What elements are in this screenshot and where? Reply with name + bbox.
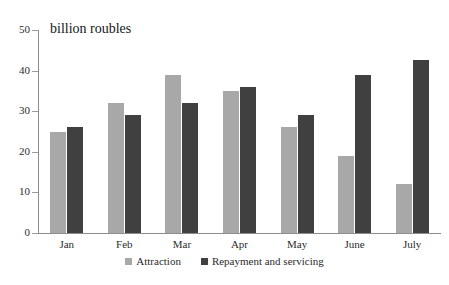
- y-axis-tick-label-wrap: 20: [0, 146, 30, 157]
- bar-repayment-july: [413, 60, 429, 233]
- bar-attraction-mar: [165, 75, 181, 233]
- y-axis-tick: [32, 233, 38, 234]
- y-axis-tick-label: 0: [2, 227, 30, 238]
- x-axis-label-may: May: [268, 238, 326, 251]
- x-axis-label-june: June: [326, 238, 384, 251]
- bar-repayment-feb: [125, 115, 141, 233]
- y-axis-tick-label: 20: [2, 146, 30, 157]
- y-axis-tick-label-wrap: 10: [0, 186, 30, 197]
- y-axis-tick-label-wrap: 40: [0, 65, 30, 76]
- legend-item-attraction[interactable]: Attraction: [125, 255, 181, 268]
- bar-repayment-may: [298, 115, 314, 233]
- y-axis-tick-label-wrap: 50: [0, 24, 30, 35]
- bar-group: [338, 30, 371, 233]
- bar-attraction-apr: [223, 91, 239, 233]
- bar-attraction-july: [396, 184, 412, 233]
- legend-label: Repayment and servicing: [212, 255, 324, 268]
- legend-swatch-icon: [125, 258, 132, 265]
- x-axis-label-feb: Feb: [96, 238, 154, 251]
- y-axis-tick-label: 40: [2, 65, 30, 76]
- plot-area: [38, 30, 441, 233]
- legend-label: Attraction: [136, 255, 181, 268]
- bar-repayment-apr: [240, 87, 256, 233]
- y-axis-tick-label: 10: [2, 186, 30, 197]
- x-axis-label-july: July: [383, 238, 441, 251]
- y-axis-tick-label: 50: [2, 24, 30, 35]
- legend-swatch-icon: [201, 258, 208, 265]
- legend-item-repayment[interactable]: Repayment and servicing: [201, 255, 324, 268]
- bar-repayment-june: [355, 75, 371, 233]
- y-axis-tick-label-wrap: 0: [0, 227, 30, 238]
- bar-attraction-june: [338, 156, 354, 233]
- x-axis-label-apr: Apr: [211, 238, 269, 251]
- bar-group: [396, 30, 429, 233]
- bar-attraction-may: [281, 127, 297, 233]
- bar-group: [108, 30, 141, 233]
- bar-chart: billion roubles 01020304050 JanFebMarApr…: [0, 0, 449, 285]
- chart-legend: AttractionRepayment and servicing: [0, 255, 449, 268]
- bar-repayment-mar: [182, 103, 198, 233]
- bar-group: [165, 30, 198, 233]
- x-axis-label-mar: Mar: [153, 238, 211, 251]
- x-axis-line: [38, 233, 441, 234]
- bar-group: [281, 30, 314, 233]
- y-axis-tick-label-wrap: 30: [0, 105, 30, 116]
- bar-group: [223, 30, 256, 233]
- x-axis-label-jan: Jan: [38, 238, 96, 251]
- bar-attraction-feb: [108, 103, 124, 233]
- bar-repayment-jan: [67, 127, 83, 233]
- bar-attraction-jan: [50, 132, 66, 234]
- bar-group: [50, 30, 83, 233]
- y-axis-tick-label: 30: [2, 105, 30, 116]
